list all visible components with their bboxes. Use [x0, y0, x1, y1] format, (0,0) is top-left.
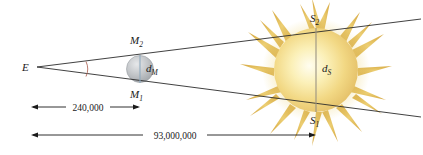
dim2-value: 93,000,000: [154, 131, 197, 141]
dim1-arrowhead-right: [133, 105, 140, 110]
astronomy-similar-triangles-diagram: E M2 M1 dM S2 S1 dS 240,000: [0, 0, 423, 155]
dimension-earth-to-sun: 93,000,000: [31, 131, 316, 141]
label-moon-top: M2: [129, 34, 143, 49]
dim1-value: 240,000: [73, 103, 104, 113]
dim1-arrowhead-left: [31, 105, 38, 110]
label-earth: E: [21, 61, 29, 73]
vertex-angle-arc: [86, 62, 88, 77]
label-moon-bottom: M1: [129, 88, 143, 103]
dimension-earth-to-moon: 240,000: [31, 103, 140, 113]
dim2-arrowhead-left: [31, 133, 38, 138]
